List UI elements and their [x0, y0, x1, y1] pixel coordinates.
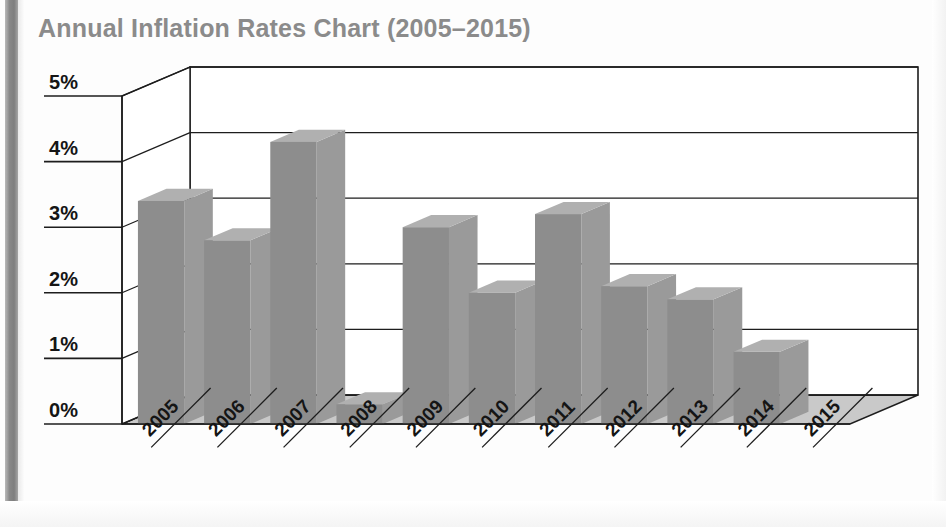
bar-2012 — [601, 274, 676, 424]
y-tick-label: 2% — [49, 268, 78, 290]
chart-plot-area: 0%1%2%3%4%5% 200520062007200820092010201… — [0, 0, 946, 527]
bar-2009 — [403, 215, 478, 424]
bar-2010 — [469, 281, 544, 424]
bar-2006 — [204, 228, 279, 424]
y-tick-label: 0% — [49, 399, 78, 421]
bar-2005 — [138, 189, 213, 424]
y-tick-label: 5% — [49, 71, 78, 93]
bar-2007 — [270, 130, 345, 424]
chart-svg: 0%1%2%3%4%5% 200520062007200820092010201… — [0, 0, 946, 527]
y-tick-label: 4% — [49, 137, 78, 159]
bar-2011 — [535, 202, 610, 424]
y-tick-label: 1% — [49, 333, 78, 355]
y-tick-label: 3% — [49, 202, 78, 224]
